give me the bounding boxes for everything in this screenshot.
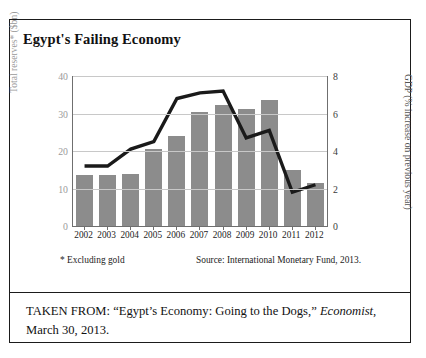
- bar-2010: [261, 100, 278, 226]
- x-axis-label-2009: 2009: [234, 230, 257, 240]
- caption-divider: [10, 292, 410, 293]
- bar-2007: [191, 112, 208, 226]
- x-axis-label-2012: 2012: [303, 230, 326, 240]
- x-axis-label-2004: 2004: [118, 230, 141, 240]
- bar-2006: [168, 136, 185, 226]
- figure-caption: TAKEN FROM: “Egypt’s Economy: Going to t…: [26, 302, 396, 339]
- chart-card: Egypt's Failing Economy Total reserves* …: [10, 20, 410, 292]
- plot-area: 01020304002468: [72, 76, 328, 227]
- y-axis-right-label: GDP (% increase on previous year): [403, 74, 414, 234]
- figure-frame: Egypt's Failing Economy Total reserves* …: [9, 19, 411, 343]
- gridline: [73, 76, 327, 77]
- y-axis-left-tick: 20: [58, 146, 68, 157]
- footnote-excluding-gold: * Excluding gold: [60, 255, 125, 265]
- y-axis-right-tick: 4: [333, 146, 338, 157]
- figure-page: Egypt's Failing Economy Total reserves* …: [0, 0, 426, 358]
- x-axis-label-2010: 2010: [257, 230, 280, 240]
- chart-title: Egypt's Failing Economy: [23, 31, 181, 48]
- bar-2009: [238, 109, 255, 226]
- y-axis-right-tick: 8: [333, 71, 338, 82]
- bar-2008: [215, 105, 232, 226]
- x-axis-label-2008: 2008: [211, 230, 234, 240]
- y-axis-left-tick: 30: [58, 108, 68, 119]
- x-axis-label-2005: 2005: [141, 230, 164, 240]
- bar-2003: [99, 175, 116, 226]
- x-axis-label-2011: 2011: [280, 230, 303, 240]
- y-axis-left-tick: 40: [58, 71, 68, 82]
- gridline: [73, 189, 327, 190]
- x-axis-label-2002: 2002: [72, 230, 95, 240]
- footnote-source: Source: International Monetary Fund, 201…: [196, 255, 361, 265]
- y-axis-right-tick: 6: [333, 108, 338, 119]
- x-axis-label-2007: 2007: [187, 230, 210, 240]
- caption-publication: Economist: [320, 304, 373, 318]
- y-axis-left-tick: 0: [63, 221, 68, 232]
- caption-prefix: TAKEN FROM: “Egypt’s Economy: Going to t…: [26, 304, 320, 318]
- bar-2002: [76, 175, 93, 226]
- gridline: [73, 151, 327, 152]
- bar-2004: [122, 174, 139, 227]
- y-axis-right-tick: 2: [333, 183, 338, 194]
- x-axis-label-2003: 2003: [95, 230, 118, 240]
- y-axis-left-tick: 10: [58, 183, 68, 194]
- y-axis-right-tick: 0: [333, 221, 338, 232]
- y-axis-left-label: Total reserves* ($bn): [8, 0, 19, 93]
- x-axis-label-2006: 2006: [164, 230, 187, 240]
- gridline: [73, 114, 327, 115]
- x-axis-tick-labels: 2002200320042005200620072008200920102011…: [72, 230, 326, 240]
- bar-2011: [284, 170, 301, 226]
